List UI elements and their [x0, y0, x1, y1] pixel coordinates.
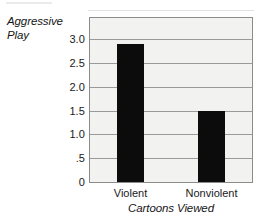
gridline — [90, 134, 252, 135]
scan-artifact — [88, 10, 254, 11]
gridline — [90, 39, 252, 40]
y-tick-label: 2.0 — [55, 81, 85, 93]
y-tick-label: .5 — [55, 152, 85, 164]
gridline — [90, 111, 252, 112]
x-axis-tick-labels: ViolentNonviolent — [0, 187, 264, 203]
x-tick-label: Violent — [114, 187, 147, 199]
plot-area — [90, 18, 252, 182]
bar-nonviolent — [198, 111, 225, 182]
x-tick-label: Nonviolent — [186, 187, 238, 199]
bar-chart-figure: Aggressive Play 0.51.01.52.02.53.0 Viole… — [0, 0, 264, 218]
scan-artifact — [6, 2, 52, 4]
bar-violent — [117, 44, 144, 182]
y-tick-label: 2.5 — [55, 57, 85, 69]
x-axis-title: Cartoons Viewed — [89, 202, 253, 214]
y-tick-label: 3.0 — [55, 33, 85, 45]
y-axis-tick-labels: 0.51.01.52.02.53.0 — [52, 17, 85, 183]
gridline — [90, 87, 252, 88]
plot-frame — [89, 17, 253, 183]
gridline — [90, 63, 252, 64]
y-tick-label: 1.0 — [55, 128, 85, 140]
gridline — [90, 158, 252, 159]
y-tick-label: 1.5 — [55, 105, 85, 117]
